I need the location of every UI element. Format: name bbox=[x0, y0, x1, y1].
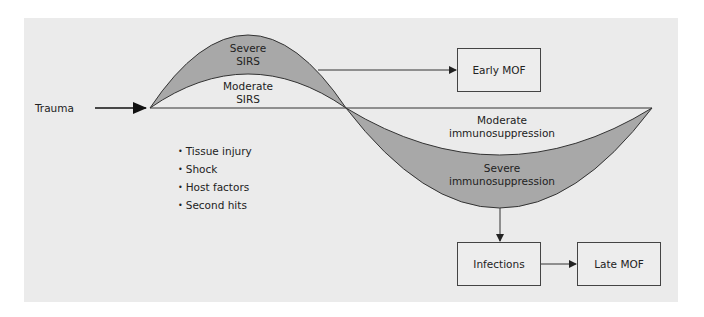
trauma-label: Trauma bbox=[35, 102, 74, 115]
moderate-sirs-line1: Moderate bbox=[213, 80, 283, 93]
moderate-sirs-line2: SIRS bbox=[213, 93, 283, 106]
severe-sirs-label: Severe SIRS bbox=[218, 42, 278, 68]
severe-sirs-line1: Severe bbox=[218, 42, 278, 55]
severe-immunosuppression-label: Severe immunosuppression bbox=[432, 162, 572, 188]
severe-immuno-line2: immunosuppression bbox=[432, 175, 572, 188]
factor-item: Host factors bbox=[178, 179, 252, 197]
late-mof-box: Late MOF bbox=[577, 242, 661, 286]
moderate-immuno-line1: Moderate bbox=[432, 114, 572, 127]
severe-immuno-line1: Severe bbox=[432, 162, 572, 175]
factor-item: Tissue injury bbox=[178, 143, 252, 161]
moderate-immunosuppression-label: Moderate immunosuppression bbox=[432, 114, 572, 140]
factor-item: Second hits bbox=[178, 197, 252, 215]
infections-box: Infections bbox=[457, 242, 541, 286]
factor-item: Shock bbox=[178, 161, 252, 179]
severe-sirs-line2: SIRS bbox=[218, 55, 278, 68]
moderate-immuno-line2: immunosuppression bbox=[432, 127, 572, 140]
factors-list: Tissue injury Shock Host factors Second … bbox=[178, 143, 252, 215]
moderate-sirs-label: Moderate SIRS bbox=[213, 80, 283, 106]
early-mof-box: Early MOF bbox=[457, 48, 541, 92]
